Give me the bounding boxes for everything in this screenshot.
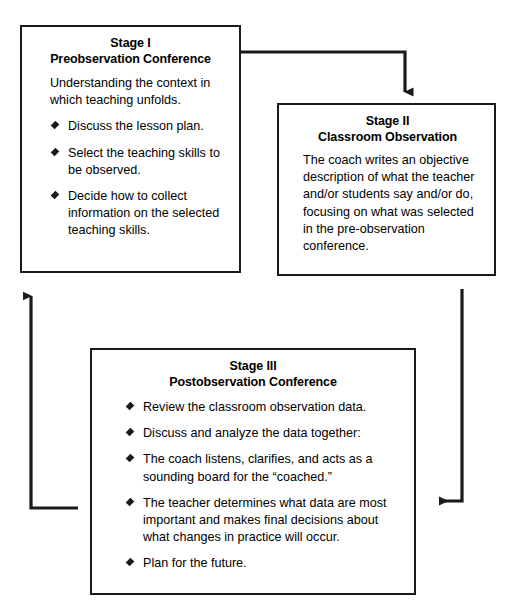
diamond-bullet-icon [51,121,60,130]
stage-2-body: The coach writes an objective descriptio… [289,152,486,255]
list-item: Discuss and analyze the data together: [127,425,396,442]
diamond-bullet-icon [126,497,135,506]
coaching-cycle-diagram: Stage I Preobservation Conference Unders… [0,0,509,616]
stage-2-title: Stage II Classroom Observation [289,114,486,145]
list-item: The teacher determines what data are mos… [127,495,396,547]
connector-stage1-to-stage2 [241,52,405,92]
stage-3-body: Review the classroom observation data. D… [102,399,404,573]
list-item: Plan for the future. [127,555,396,572]
stage-2-box: Stage II Classroom Observation The coach… [277,103,496,276]
list-item-text: Select the teaching skills to be observe… [68,145,225,179]
stage-1-box: Stage I Preobservation Conference Unders… [20,25,241,273]
stage-3-title: Stage III Postobservation Conference [102,359,404,390]
stage-1-label: Stage I [30,36,231,52]
stage-2-label: Stage II [289,114,486,130]
stage-1-name: Preobservation Conference [30,52,231,68]
list-item: Review the classroom observation data. [127,399,396,416]
diamond-bullet-icon [126,428,135,437]
stage-1-bullet-list: Discuss the lesson plan. Select the teac… [52,118,225,239]
list-item-text: Discuss and analyze the data together: [143,425,396,442]
stage-1-title: Stage I Preobservation Conference [30,36,231,67]
diamond-bullet-icon [51,191,60,200]
stage-2-name: Classroom Observation [289,130,486,146]
list-item: Decide how to collect information on the… [52,188,225,240]
list-item-text: Decide how to collect information on the… [68,188,225,240]
diamond-bullet-icon [126,558,135,567]
list-item: Select the teaching skills to be observe… [52,145,225,179]
stage-1-intro: Understanding the context in which teach… [50,75,215,109]
stage-1-inner: Stage I Preobservation Conference Unders… [22,27,239,240]
stage-2-intro: The coach writes an objective descriptio… [303,152,478,255]
diamond-bullet-icon [126,454,135,463]
stage-3-bullet-list: Review the classroom observation data. D… [127,399,396,573]
list-item: The coach listens, clarifies, and acts a… [127,451,396,485]
diamond-bullet-icon [126,402,135,411]
list-item-text: Discuss the lesson plan. [68,118,225,135]
connector-stage3-to-stage1 [31,296,78,508]
list-item-text: The teacher determines what data are mos… [143,495,396,547]
stage-3-label: Stage III [102,359,404,375]
stage-2-inner: Stage II Classroom Observation The coach… [279,105,494,255]
stage-3-box: Stage III Postobservation Conference Rev… [90,348,416,595]
stage-3-inner: Stage III Postobservation Conference Rev… [92,350,414,573]
stage-3-name: Postobservation Conference [102,375,404,391]
connector-stage2-to-stage3 [440,289,462,501]
diamond-bullet-icon [51,147,60,156]
list-item: Discuss the lesson plan. [52,118,225,135]
list-item-text: Plan for the future. [143,555,396,572]
list-item-text: The coach listens, clarifies, and acts a… [143,451,396,485]
stage-1-body: Understanding the context in which teach… [30,75,231,240]
list-item-text: Review the classroom observation data. [143,399,396,416]
